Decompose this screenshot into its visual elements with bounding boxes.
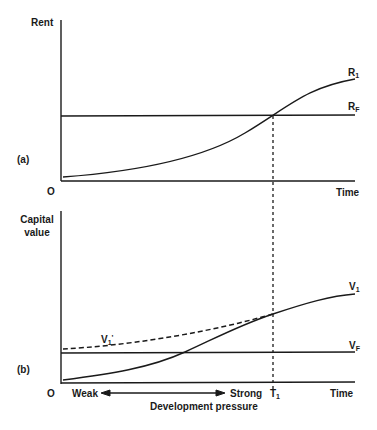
capital-label-line2: value: [20, 227, 54, 238]
panel-a: [61, 20, 355, 181]
vf-label-sub: F: [356, 345, 360, 352]
arrow-left-icon: [101, 390, 110, 396]
panel-b-tag: (b): [17, 364, 30, 375]
strong-label: Strong: [230, 388, 262, 399]
panel-b-origin-label: O: [47, 388, 55, 399]
rent-axis-label: Rent: [31, 17, 53, 28]
r1-curve: [63, 79, 355, 177]
v1-prime-label-prime: ': [112, 333, 114, 342]
v1-label-main: V: [349, 281, 356, 292]
panel-b-time-label: Time: [330, 388, 353, 399]
vf-label: VF: [349, 340, 360, 354]
r1-label: R1: [348, 67, 359, 81]
v1-prime-dashed-curve: [63, 314, 273, 349]
t1-label-sub: 1: [276, 393, 280, 400]
v1-prime-label-main: V: [101, 334, 108, 345]
capital-label-line1: Capital: [20, 214, 54, 225]
r1-label-sub: 1: [355, 72, 359, 79]
t1-label: T1: [270, 388, 280, 402]
v1-prime-label: V1': [101, 332, 113, 348]
panel-a-time-label: Time: [336, 187, 359, 198]
arrow-right-icon: [216, 390, 225, 396]
v1-label-sub: 1: [356, 286, 360, 293]
diagram-canvas: [0, 0, 377, 430]
capital-value-axis-label: Capital value: [20, 214, 54, 238]
panel-b-x-axis: [61, 382, 355, 383]
panel-a-origin-label: O: [47, 186, 55, 197]
development-pressure-arrow: [101, 390, 225, 396]
rf-line: [61, 115, 355, 116]
rf-label: RF: [348, 101, 360, 115]
development-pressure-label: Development pressure: [150, 401, 258, 412]
vf-label-main: V: [349, 340, 356, 351]
v1-label: V1: [349, 281, 360, 295]
panel-b: [61, 211, 355, 384]
panel-a-tag: (a): [17, 154, 29, 165]
rf-label-sub: F: [355, 106, 359, 113]
weak-label: Weak: [72, 388, 98, 399]
vf-line: [61, 352, 355, 353]
